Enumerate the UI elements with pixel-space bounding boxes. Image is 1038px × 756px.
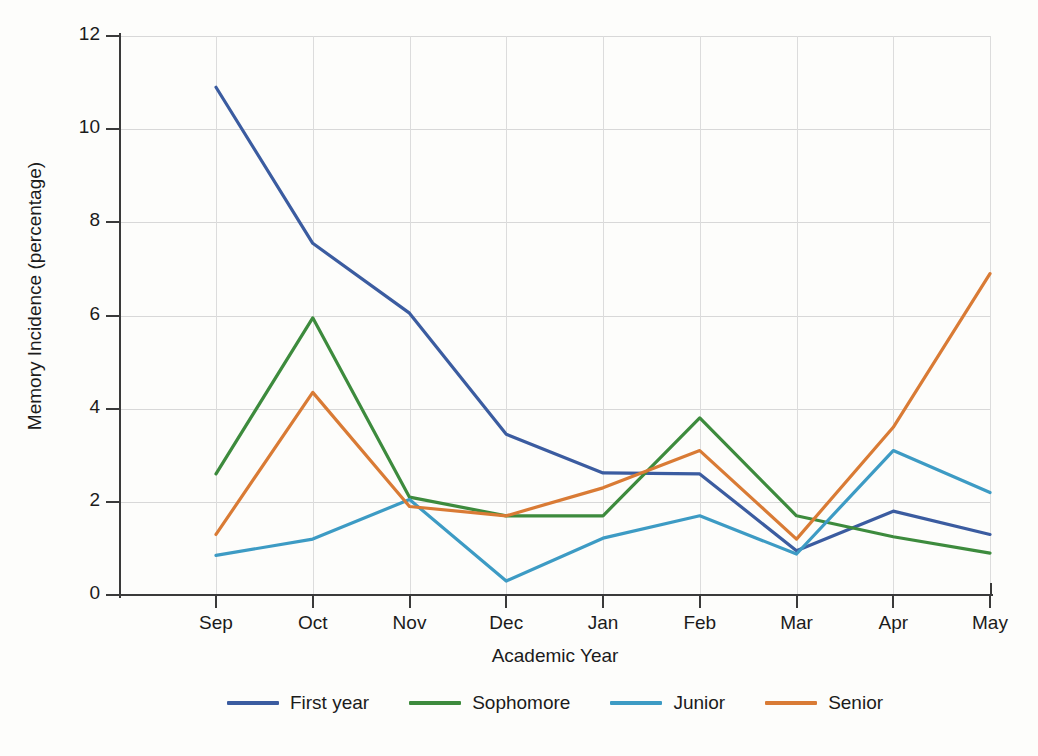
y-tick-label-12: 12 — [30, 23, 100, 45]
x-axis-line — [117, 594, 993, 596]
y-axis-title: Memory Incidence (percentage) — [24, 56, 46, 536]
x-tick-oct — [312, 595, 314, 608]
legend-item-senior[interactable]: Senior — [765, 692, 883, 714]
line-chart: 024681012 SepOctNovDecJanFebMarAprMay Me… — [0, 0, 1038, 756]
y-tick-label-0: 0 — [30, 582, 100, 604]
x-tick-label-feb: Feb — [655, 612, 745, 634]
y-tick-4 — [106, 408, 120, 410]
y-tick-6 — [106, 315, 120, 317]
legend-label-senior: Senior — [828, 692, 883, 714]
y-tick-12 — [106, 35, 120, 37]
y-tick-2 — [106, 501, 120, 503]
x-tick-label-may: May — [945, 612, 1035, 634]
x-tick-label-dec: Dec — [461, 612, 551, 634]
y-tick-0 — [106, 594, 120, 596]
x-tick-label-jan: Jan — [558, 612, 648, 634]
legend-item-sophomore[interactable]: Sophomore — [409, 692, 570, 714]
legend-swatch-sophomore — [409, 701, 461, 705]
x-tick-dec — [505, 595, 507, 608]
legend-item-first-year[interactable]: First year — [227, 692, 369, 714]
legend-label-first-year: First year — [290, 692, 369, 714]
x-tick-apr — [892, 595, 894, 608]
series-lines — [119, 36, 991, 595]
x-axis-title: Academic Year — [119, 645, 991, 667]
x-tick-jan — [602, 595, 604, 608]
plot-area — [119, 36, 991, 595]
y-tick-8 — [106, 221, 120, 223]
y-tick-10 — [106, 128, 120, 130]
x-tick-label-sep: Sep — [171, 612, 261, 634]
x-tick-sep — [215, 595, 217, 608]
x-tick-label-mar: Mar — [752, 612, 842, 634]
legend-label-junior: Junior — [673, 692, 725, 714]
x-tick-label-nov: Nov — [365, 612, 455, 634]
legend-swatch-first-year — [227, 701, 279, 705]
legend-label-sophomore: Sophomore — [472, 692, 570, 714]
x-tick-label-oct: Oct — [268, 612, 358, 634]
series-line-first-year — [216, 87, 990, 551]
x-tick-label-apr: Apr — [848, 612, 938, 634]
x-tick-may — [989, 595, 991, 608]
legend-item-junior[interactable]: Junior — [610, 692, 725, 714]
x-tick-feb — [699, 595, 701, 608]
chart-legend: First yearSophomoreJuniorSenior — [119, 692, 991, 714]
x-tick-nov — [409, 595, 411, 608]
legend-swatch-senior — [765, 701, 817, 705]
series-line-senior — [216, 274, 990, 540]
x-tick-mar — [796, 595, 798, 608]
legend-swatch-junior — [610, 701, 662, 705]
